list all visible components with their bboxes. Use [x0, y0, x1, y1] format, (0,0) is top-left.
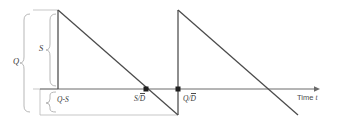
brace-q-minus-s-label: Q-S	[57, 96, 69, 104]
brace-group	[20, 14, 56, 112]
tick-label-q-over-dbar: Q/D	[183, 93, 196, 102]
brace-q-minus-s	[46, 92, 56, 112]
x-axis-label: Time t	[297, 94, 318, 102]
marker-q-over-dbar	[176, 87, 181, 92]
x-axis-label-variable: t	[315, 93, 317, 102]
inventory-curve	[58, 10, 298, 115]
decline-cycle-1	[58, 10, 178, 115]
marker-s-over-dbar	[144, 87, 149, 92]
tick-label-s-over-dbar: S/D	[134, 93, 145, 102]
x-axis-label-prefix: Time	[297, 93, 315, 102]
figure-canvas	[0, 0, 345, 123]
brace-s-label: S	[39, 44, 43, 53]
brace-q-label: Q	[13, 57, 19, 66]
inventory-sawtooth-figure: Q S Q-S S/D Q/D Time t	[0, 0, 345, 123]
axis-arrow-icon	[314, 86, 320, 92]
guide-lines	[33, 10, 178, 115]
brace-q	[20, 14, 30, 112]
decline-cycle-2	[178, 10, 298, 115]
tick1-denominator: D	[140, 93, 145, 102]
brace-s	[46, 14, 56, 86]
tick2-denominator: D	[191, 93, 196, 102]
